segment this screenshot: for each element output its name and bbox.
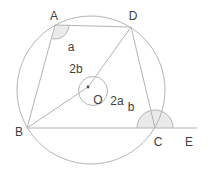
label-angle-b: b: [128, 100, 135, 114]
radius-od: [88, 27, 131, 87]
circumscribed-circle: [17, 16, 165, 164]
label-angle-2b: 2b: [69, 62, 83, 76]
diagram-canvas: A D B C E O a 2b 2a b: [0, 0, 210, 178]
label-center-o: O: [93, 93, 102, 107]
geometry-diagram: A D B C E O a 2b 2a b: [0, 0, 210, 178]
label-point-b: B: [15, 125, 23, 139]
label-angle-a: a: [68, 40, 75, 54]
label-point-e: E: [185, 135, 193, 149]
label-point-c: C: [154, 135, 163, 149]
center-dot: [87, 86, 90, 89]
label-point-d: D: [129, 9, 138, 23]
label-point-a: A: [50, 9, 58, 23]
angle-sector-c-fill: [137, 110, 173, 128]
chord-dc: [131, 27, 155, 128]
label-angle-2a: 2a: [110, 94, 124, 108]
